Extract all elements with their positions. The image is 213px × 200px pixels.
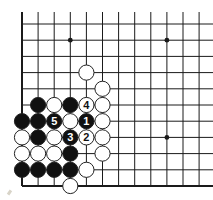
white-stone <box>47 146 62 161</box>
star-point-icon <box>68 38 73 43</box>
black-stone <box>30 130 45 145</box>
white-stone-icon <box>47 97 62 112</box>
black-stone-icon <box>30 114 45 129</box>
white-stone-icon <box>95 81 110 96</box>
white-stone <box>30 146 45 161</box>
black-stone-icon <box>14 162 29 177</box>
white-stone <box>95 146 110 161</box>
white-stone <box>95 81 110 96</box>
white-stone-icon <box>47 130 62 145</box>
white-stone-icon <box>14 130 29 145</box>
stones: 45132 <box>14 65 110 194</box>
black-stone-icon <box>47 162 62 177</box>
move-number-label: 3 <box>67 131 73 143</box>
white-stone-icon <box>63 114 78 129</box>
move-number-label: 2 <box>83 131 89 143</box>
white-stone-icon <box>79 162 94 177</box>
white-stone-icon <box>95 114 110 129</box>
black-stone <box>30 162 45 177</box>
white-stone-icon <box>95 97 110 112</box>
white-stone: 2 <box>79 130 94 145</box>
white-stone <box>95 130 110 145</box>
white-stone <box>47 130 62 145</box>
black-stone <box>14 114 29 129</box>
white-stone-icon <box>95 146 110 161</box>
white-stone <box>79 162 94 177</box>
black-stone-icon <box>30 97 45 112</box>
move-number-label: 5 <box>51 115 57 127</box>
black-stone <box>30 114 45 129</box>
black-stone <box>63 162 78 177</box>
white-stone <box>47 97 62 112</box>
black-stone-icon <box>63 97 78 112</box>
black-stone-icon <box>63 146 78 161</box>
black-stone-icon <box>63 162 78 177</box>
white-stone <box>63 114 78 129</box>
white-stone <box>95 114 110 129</box>
black-stone: 5 <box>47 114 62 129</box>
white-stone <box>95 97 110 112</box>
white-stone <box>14 130 29 145</box>
black-stone <box>63 146 78 161</box>
white-stone-icon <box>63 178 78 193</box>
black-stone <box>63 97 78 112</box>
white-stone: 4 <box>79 97 94 112</box>
white-stone-icon <box>47 146 62 161</box>
black-stone: 1 <box>79 114 94 129</box>
white-stone-icon <box>79 65 94 80</box>
star-point-icon <box>165 38 170 43</box>
black-stone <box>30 97 45 112</box>
black-stone-icon <box>14 114 29 129</box>
white-stone <box>14 146 29 161</box>
black-stone <box>14 162 29 177</box>
black-stone <box>47 162 62 177</box>
move-number-label: 4 <box>83 99 90 111</box>
white-stone-icon <box>14 146 29 161</box>
star-point-icon <box>165 135 170 140</box>
black-stone-icon <box>30 130 45 145</box>
black-stone-icon <box>30 162 45 177</box>
black-stone: 3 <box>63 130 78 145</box>
move-number-label: 1 <box>83 115 89 127</box>
white-stone <box>63 178 78 193</box>
white-stone-icon <box>30 146 45 161</box>
white-stone <box>79 65 94 80</box>
white-stone-icon <box>95 130 110 145</box>
go-board: 45132 <box>0 0 213 200</box>
